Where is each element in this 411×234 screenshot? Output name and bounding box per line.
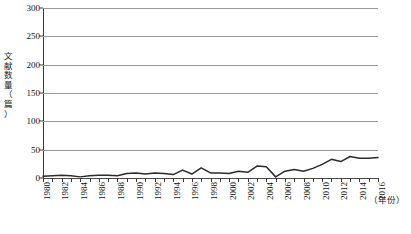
x-axis-tick-labels: 1980198219841986198819901992199419961998… <box>43 182 378 222</box>
y-tick-mark-300 <box>39 8 43 9</box>
y-tick-label-0: 0 <box>14 173 40 183</box>
y-axis-tick-labels: 050100150200250300 <box>12 0 40 234</box>
y-tick-mark-50 <box>39 149 43 150</box>
x-tick-label-1990: 1990 <box>135 182 145 200</box>
gridline-200 <box>43 65 378 66</box>
x-tick-label-1998: 1998 <box>209 182 219 200</box>
x-tick-label-1988: 1988 <box>116 182 126 200</box>
y-tick-mark-250 <box>39 36 43 37</box>
y-tick-label-250: 250 <box>14 31 40 41</box>
y-tick-label-100: 100 <box>14 116 40 126</box>
x-tick-label-1982: 1982 <box>60 182 70 200</box>
x-tick-label-1980: 1980 <box>42 182 52 200</box>
gridline-300 <box>43 8 378 9</box>
y-tick-mark-100 <box>39 121 43 122</box>
x-tick-label-2000: 2000 <box>228 182 238 200</box>
x-tick-label-1994: 1994 <box>172 182 182 200</box>
x-tick-label-1996: 1996 <box>190 182 200 200</box>
y-tick-label-200: 200 <box>14 60 40 70</box>
x-axis-title: （年份） <box>369 193 405 205</box>
figure-caption <box>95 226 355 234</box>
x-tick-label-2004: 2004 <box>265 182 275 200</box>
gridline-50 <box>43 150 378 151</box>
y-tick-label-300: 300 <box>14 3 40 13</box>
gridline-100 <box>43 121 378 122</box>
x-tick-label-2010: 2010 <box>321 182 331 200</box>
x-tick-label-2008: 2008 <box>302 182 312 200</box>
x-tick-label-2006: 2006 <box>283 182 293 200</box>
y-tick-label-50: 50 <box>14 145 40 155</box>
x-tick-label-1986: 1986 <box>97 182 107 200</box>
gridline-150 <box>43 93 378 94</box>
x-tick-label-1992: 1992 <box>153 182 163 200</box>
x-tick-label-2002: 2002 <box>246 182 256 200</box>
line-chart-figure: 文 献 数 量 （ 篇 ） 050100150200250300 1980198… <box>0 0 411 234</box>
gridline-250 <box>43 36 378 37</box>
x-tick-label-2012: 2012 <box>339 182 349 200</box>
y-tick-mark-150 <box>39 93 43 94</box>
x-tick-label-1984: 1984 <box>79 182 89 200</box>
y-tick-mark-200 <box>39 64 43 65</box>
x-tick-label-2014: 2014 <box>358 182 368 200</box>
plot-area <box>43 8 378 178</box>
y-tick-label-150: 150 <box>14 88 40 98</box>
